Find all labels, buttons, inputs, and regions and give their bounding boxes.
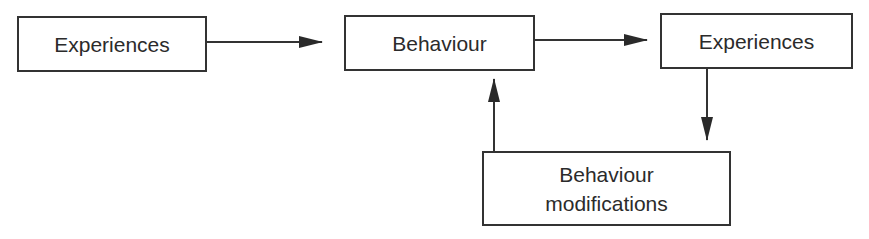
node-experiences-left: Experiences [17, 16, 207, 72]
node-label: Experiences [699, 27, 815, 56]
node-behaviour-modifications: Behaviour modifications [482, 151, 731, 226]
node-experiences-right: Experiences [660, 13, 853, 69]
node-label: Experiences [54, 30, 170, 59]
node-behaviour: Behaviour [344, 15, 535, 71]
node-label: Behaviour [392, 29, 487, 58]
node-label-line2: modifications [545, 189, 668, 218]
node-label-line1: Behaviour [559, 160, 654, 189]
